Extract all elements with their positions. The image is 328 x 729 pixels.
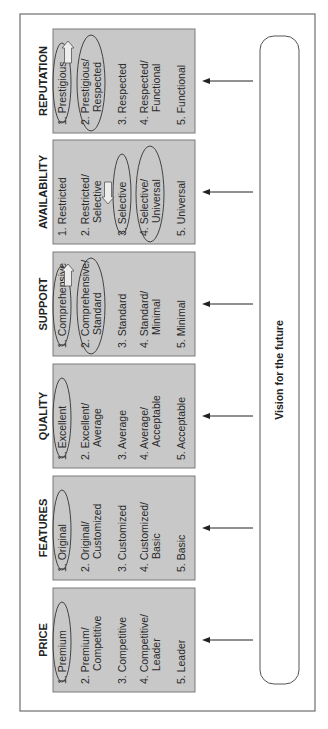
option-label: 2. Original/ — [79, 521, 91, 572]
option-label: 3. Selective — [116, 182, 128, 236]
arrow-reputation — [202, 78, 253, 84]
option-label: Functional — [150, 64, 162, 112]
panel-quality: QUALITY1. Excellent2. Excellent/Average3… — [37, 364, 195, 468]
option-label: Selective — [91, 180, 103, 223]
option-label: 4. Average/ — [138, 407, 150, 460]
option-label: 4. Standard/ — [138, 291, 150, 348]
option-label: 5. Minimal — [175, 300, 187, 348]
option-label: 1. Prestigious — [56, 61, 68, 125]
option-label: 1. Excellent — [56, 406, 68, 460]
option-item: 5. Functional — [175, 65, 187, 125]
option-item: 3. Respected — [116, 63, 128, 125]
arrow-head-icon — [202, 301, 210, 307]
panel-availability: AVAILABILITY1. Restricted2. Restricted/S… — [37, 140, 195, 244]
option-label: Customized — [91, 503, 103, 559]
dimension-panels: PRICE1. Premium2. Premium/Competitive3. … — [37, 29, 195, 692]
option-label: 5. Acceptable — [175, 397, 187, 460]
option-label: Universal — [150, 179, 162, 223]
option-item: 3. Average — [116, 410, 128, 460]
option-item: 5. Minimal — [175, 300, 187, 348]
arrow-head-icon — [202, 637, 210, 643]
arrow-features — [202, 525, 253, 531]
positioning-diagram: PRICE1. Premium2. Premium/Competitive3. … — [0, 0, 328, 729]
diagram-stage: PRICE1. Premium2. Premium/Competitive3. … — [0, 0, 328, 729]
option-item: 3. Competitive — [116, 617, 128, 684]
option-label: Respected — [91, 62, 103, 112]
option-item: 3. Standard — [116, 294, 128, 348]
option-item: 5. Basic — [175, 535, 187, 572]
features-title: FEATURES — [37, 499, 49, 557]
option-label: 1. Premium — [56, 630, 68, 684]
option-label: 1. Restricted — [56, 177, 68, 236]
arrow-price — [202, 637, 253, 643]
vision-arrows — [202, 78, 253, 643]
support-title: SUPPORT — [37, 277, 49, 330]
option-label: 5. Functional — [175, 65, 187, 125]
vision-label: Vision for the future — [273, 320, 285, 420]
option-label: 3. Competitive — [116, 617, 128, 684]
option-label: Leader — [150, 638, 162, 671]
reputation-title: REPUTATION — [37, 46, 49, 116]
panel-features: FEATURES1. Original2. Original/Customize… — [37, 476, 195, 580]
option-label: 5. Leader — [175, 639, 187, 684]
arrow-quality — [202, 413, 253, 419]
option-label: 4. Respected/ — [138, 60, 150, 125]
quality-title: QUALITY — [37, 391, 49, 440]
option-label: 2. Premium/ — [79, 627, 91, 684]
option-label: Standard — [91, 292, 103, 335]
option-label: Acceptable — [150, 395, 162, 447]
option-label: 3. Average — [116, 410, 128, 460]
arrow-head-icon — [202, 78, 210, 84]
arrow-head-icon — [202, 189, 210, 195]
availability-title: AVAILABILITY — [37, 154, 49, 229]
option-item: 5. Acceptable — [175, 397, 187, 460]
arrow-availability — [202, 189, 253, 195]
option-label: 2. Restricted/ — [79, 174, 91, 236]
option-label: 5. Universal — [175, 181, 187, 236]
option-label: Basic — [150, 533, 162, 559]
option-item: 1. Restricted — [56, 177, 68, 236]
panel-reputation: REPUTATION1. Prestigious2. Prestigious/R… — [37, 29, 195, 133]
panel-price: PRICE1. Premium2. Premium/Competitive3. … — [37, 588, 195, 692]
arrow-head-icon — [202, 525, 210, 531]
option-label: 5. Basic — [175, 535, 187, 572]
option-label: 4. Competitive/ — [138, 614, 150, 684]
option-label: Average — [91, 408, 103, 447]
option-item: 5. Universal — [175, 181, 187, 236]
arrow-head-icon — [202, 413, 210, 419]
option-item: 3. Customized — [116, 505, 128, 572]
option-label: 3. Standard — [116, 294, 128, 348]
option-label: 3. Customized — [116, 505, 128, 572]
price-title: PRICE — [37, 623, 49, 657]
panel-support: SUPPORT1. Comprehensive2. Comprehensive/… — [37, 252, 195, 356]
option-item: 5. Leader — [175, 639, 187, 684]
option-label: 4. Customized/ — [138, 502, 150, 572]
option-label: Competitive — [91, 615, 103, 671]
option-label: 3. Respected — [116, 63, 128, 125]
option-label: 2. Excellent/ — [79, 403, 91, 460]
arrow-support — [202, 301, 253, 307]
option-label: Minimal — [150, 299, 162, 335]
